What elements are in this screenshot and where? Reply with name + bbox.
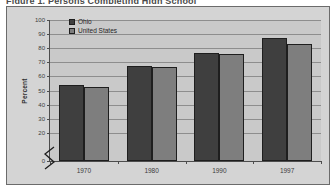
y-tick-mark (47, 62, 50, 63)
chart-figure: Figure 1. Persons Completing High School… (0, 0, 336, 191)
y-tick-label: 100 (35, 17, 45, 23)
chart-frame: Percent 02030405060708090100 19701980199… (6, 6, 330, 185)
bar-united-states-1980[interactable] (152, 67, 177, 161)
y-tick-label: 70 (38, 59, 45, 65)
y-tick-label: 40 (38, 102, 45, 108)
x-tick-label-1970: 1970 (77, 167, 91, 174)
bar-ohio-1997[interactable] (262, 38, 287, 161)
legend-label: Ohio (78, 18, 92, 25)
y-tick-label: 50 (38, 88, 45, 94)
bar-group (59, 20, 109, 161)
bar-united-states-1990[interactable] (219, 54, 244, 161)
chart-legend: OhioUnited States (69, 18, 117, 34)
bar-ohio-1990[interactable] (194, 53, 219, 161)
y-tick-mark (47, 48, 50, 49)
x-tick-label-1980: 1980 (144, 167, 158, 174)
y-axis-label: Percent (19, 20, 29, 162)
plot-area: 02030405060708090100 1970198019901997 (49, 20, 321, 162)
bar-group (127, 20, 177, 161)
legend-item-united-states[interactable]: United States (69, 27, 117, 34)
bar-group (262, 20, 312, 161)
bar-ohio-1970[interactable] (59, 85, 84, 161)
x-tick-label-1990: 1990 (212, 167, 226, 174)
axis-break-icon (43, 145, 56, 171)
y-tick-label: 30 (38, 116, 45, 122)
bar-ohio-1980[interactable] (127, 66, 152, 161)
x-tick-mark (118, 161, 119, 164)
y-tick-mark (47, 119, 50, 120)
legend-swatch-icon (69, 19, 75, 25)
y-tick-mark (47, 105, 50, 106)
bar-united-states-1970[interactable] (84, 87, 109, 161)
y-tick-label: 60 (38, 73, 45, 79)
bar-united-states-1997[interactable] (287, 44, 312, 161)
x-tick-mark (321, 161, 322, 164)
legend-swatch-icon (69, 28, 75, 34)
y-tick-mark (47, 91, 50, 92)
y-tick-label: 20 (38, 130, 45, 136)
y-tick-label: 90 (38, 31, 45, 37)
x-tick-mark (186, 161, 187, 164)
bar-group (194, 20, 244, 161)
y-tick-mark (47, 76, 50, 77)
y-tick-mark (47, 20, 50, 21)
x-tick-mark (253, 161, 254, 164)
legend-item-ohio[interactable]: Ohio (69, 18, 117, 25)
chart-title-fragment: Figure 1. Persons Completing High School (6, 0, 206, 4)
y-tick-mark (47, 133, 50, 134)
legend-label: United States (78, 27, 117, 34)
y-tick-label: 80 (38, 45, 45, 51)
x-tick-label-1997: 1997 (280, 167, 294, 174)
y-tick-mark (47, 34, 50, 35)
